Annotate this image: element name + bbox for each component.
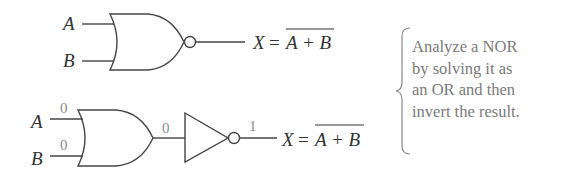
output-equation-top: X = A + B: [252, 29, 334, 53]
inversion-bubble-bottom: [229, 133, 240, 144]
input-label-a-bottom: A: [29, 111, 43, 132]
output-lhs-top: X: [252, 32, 266, 53]
output-lhs-bottom: X: [281, 129, 295, 150]
note-line: by solving it as: [412, 58, 562, 80]
equals-bottom: =: [298, 129, 309, 150]
inversion-bubble-top: [185, 37, 196, 48]
input-value-b: 0: [60, 137, 68, 153]
buffer-triangle: [185, 113, 228, 162]
inverter-gate: [185, 113, 277, 162]
or-output-value: 0: [162, 120, 170, 136]
or-gate-bottom: [50, 110, 185, 166]
note-line: an OR and then: [412, 79, 562, 101]
input-label-b-bottom: B: [31, 148, 43, 169]
input-label-a-top: A: [61, 13, 75, 34]
annotation-note: Analyze a NOR by solving it as an OR and…: [412, 36, 562, 122]
equals-top: =: [269, 32, 280, 53]
output-rhs-bottom: A + B: [313, 129, 361, 150]
input-value-a: 0: [60, 100, 68, 116]
nor-gate-top: [82, 14, 245, 70]
curly-brace: [396, 28, 410, 154]
output-equation-bottom: X = A + B: [281, 125, 364, 150]
or-body-bottom: [78, 110, 153, 166]
inverter-output-value: 1: [249, 118, 257, 134]
or-body-top: [110, 14, 184, 70]
input-label-b-top: B: [63, 50, 75, 71]
note-line: invert the result.: [412, 101, 562, 123]
note-line: Analyze a NOR: [412, 36, 562, 58]
output-rhs-top: A + B: [284, 32, 332, 53]
